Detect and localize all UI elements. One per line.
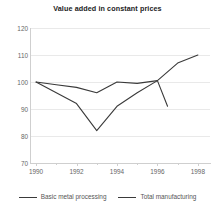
legend-item[interactable]: Basic metal processing: [19, 193, 107, 201]
x-tick-mark: [77, 163, 78, 166]
x-axis-labels: 19901992199419961998: [0, 168, 215, 182]
x-tick-mark: [117, 163, 118, 166]
x-tick-mark-minor: [137, 163, 138, 165]
x-tick-mark: [36, 163, 37, 166]
legend-label: Total manufacturing: [140, 193, 196, 201]
legend-line-icon: [19, 197, 37, 198]
x-tick-label: 1996: [142, 168, 172, 176]
legend-line-icon: [118, 197, 136, 198]
x-tick-mark-minor: [56, 163, 57, 165]
series-line: [36, 81, 167, 131]
series-line: [36, 55, 198, 93]
x-tick-mark: [157, 163, 158, 166]
chart-container: Value added in constant prices 708090100…: [0, 0, 215, 213]
x-tick-mark: [198, 163, 199, 166]
plot-area: [30, 28, 210, 163]
legend-label: Basic metal processing: [41, 193, 107, 201]
x-tick-mark-minor: [178, 163, 179, 165]
plot-wrapper: [0, 24, 215, 166]
series-lines: [30, 28, 210, 163]
legend-item[interactable]: Total manufacturing: [118, 193, 196, 201]
x-tick-mark-minor: [97, 163, 98, 165]
chart-legend: Basic metal processingTotal manufacturin…: [0, 190, 215, 204]
x-tick-label: 1994: [102, 168, 132, 176]
x-tick-label: 1998: [183, 168, 213, 176]
x-tick-label: 1992: [62, 168, 92, 176]
x-tick-label: 1990: [21, 168, 51, 176]
chart-title: Value added in constant prices: [0, 4, 215, 13]
